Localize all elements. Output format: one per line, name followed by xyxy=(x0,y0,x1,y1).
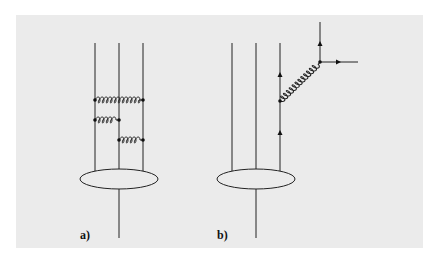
diagram-b xyxy=(217,22,358,238)
hadron-blob xyxy=(80,169,158,189)
arrow-up-icon xyxy=(318,41,323,46)
arrow-up-icon xyxy=(278,72,283,77)
arrow-up-icon xyxy=(278,130,283,135)
gluon-diagonal xyxy=(278,60,322,103)
gluon-lower xyxy=(119,137,143,143)
panel-label-b: b) xyxy=(217,228,228,243)
panel-label-a: a) xyxy=(80,228,90,243)
hadron-blob xyxy=(217,169,295,189)
arrow-right-icon xyxy=(336,60,341,65)
diagram-a xyxy=(80,43,158,238)
gluon-middle xyxy=(95,117,119,123)
feynman-diagrams xyxy=(0,0,440,261)
